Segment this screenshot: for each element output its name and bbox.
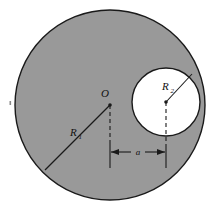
stray-mark [10, 101, 12, 105]
label-center-o: O [101, 87, 109, 99]
svg-text:1: 1 [79, 133, 83, 141]
svg-text:R: R [161, 80, 169, 92]
geometry-figure: O R 1 R 2 a [0, 0, 210, 214]
svg-text:2: 2 [171, 87, 175, 95]
label-offset-a: a [136, 147, 141, 157]
svg-text:R: R [69, 126, 77, 138]
figure-canvas: O R 1 R 2 a [0, 0, 210, 214]
